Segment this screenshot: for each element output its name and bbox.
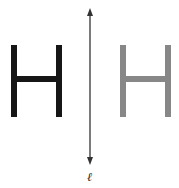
arrow-down-icon [87,157,93,165]
arrow-up-icon [87,8,93,16]
line-of-reflection [0,0,179,188]
line-label: ℓ [87,170,92,185]
